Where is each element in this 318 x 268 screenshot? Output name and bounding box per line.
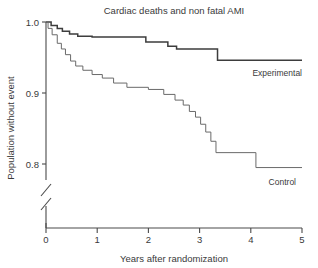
chart-title: Cardiac deaths and non fatal AMI <box>104 5 244 16</box>
chart-series <box>46 22 302 168</box>
x-tick-label: 5 <box>299 234 304 245</box>
x-tick-label: 0 <box>43 234 48 245</box>
x-tick-label: 4 <box>248 234 253 245</box>
x-tick-label: 3 <box>197 234 202 245</box>
chart-svg: Cardiac deaths and non fatal AMI Populat… <box>0 0 318 268</box>
series-label-experimental: Experimental <box>252 68 302 78</box>
series-labels: ExperimentalControl <box>252 68 302 186</box>
y-axis-title: Population without event <box>5 76 16 180</box>
series-curve-control <box>46 22 302 168</box>
y-tick-label: 1.0 <box>26 17 39 28</box>
x-tick-label: 2 <box>146 234 151 245</box>
y-tick-label: 0.8 <box>26 159 39 170</box>
x-axis-title: Years after randomization <box>120 253 228 264</box>
y-tick-label: 0.9 <box>26 88 39 99</box>
chart-axes: 1.00.90.8012345 <box>26 17 305 246</box>
series-curve-experimental <box>46 22 302 60</box>
series-label-control: Control <box>269 177 297 187</box>
survival-chart: Cardiac deaths and non fatal AMI Populat… <box>0 0 318 268</box>
x-tick-label: 1 <box>95 234 100 245</box>
